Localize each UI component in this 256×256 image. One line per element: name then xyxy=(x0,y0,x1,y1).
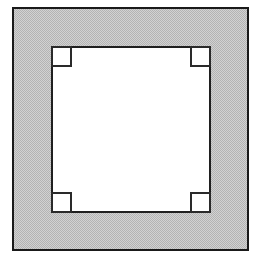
corner-notch-top-left xyxy=(52,47,71,66)
corner-notch-bottom-left xyxy=(52,193,71,212)
corner-notch-top-right xyxy=(191,47,210,66)
figure-canvas: Square frame with notched inner opening xyxy=(0,0,256,256)
line-drawing-svg xyxy=(0,0,256,256)
corner-notch-bottom-right xyxy=(191,193,210,212)
inner-opening xyxy=(52,47,210,212)
